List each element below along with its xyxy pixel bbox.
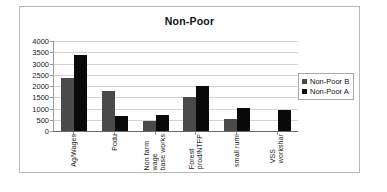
x-axis-category: Non farmwagebase works xyxy=(134,132,175,192)
plot-area xyxy=(53,41,298,132)
x-axis-tick-label: Podu xyxy=(111,134,118,151)
x-axis-tick-label: Non farm xyxy=(143,134,150,170)
x-axis-category: VSSworkshar xyxy=(256,132,297,192)
x-axis-tick-label: base works xyxy=(159,134,166,170)
x-axis-label-stack: Non farmwagebase works xyxy=(143,134,166,170)
bar[interactable] xyxy=(156,115,169,131)
bar[interactable] xyxy=(115,116,128,131)
chart-frame: Non-Poor 0500100015002000250030003500400… xyxy=(19,6,360,173)
y-axis-tick-label: 4000 xyxy=(32,37,49,46)
chart-title: Non-Poor xyxy=(20,15,359,27)
x-axis-tick-label: wage xyxy=(151,134,158,170)
bar[interactable] xyxy=(278,110,291,131)
x-axis-label-stack: Ag/Wages xyxy=(70,134,77,167)
bar-series-container xyxy=(54,41,298,131)
x-axis-tick-label: small rumi xyxy=(233,134,240,167)
y-axis-tick-label: 0 xyxy=(45,127,49,136)
y-axis-tick-label: 500 xyxy=(36,115,49,124)
bar[interactable] xyxy=(183,97,196,131)
bar[interactable] xyxy=(74,55,87,132)
bar-group xyxy=(217,41,258,131)
bar-group xyxy=(95,41,136,131)
y-axis-tick-label: 2000 xyxy=(32,82,49,91)
bar[interactable] xyxy=(102,91,115,132)
x-axis-category: Podu xyxy=(94,132,135,192)
legend-label: Non-Poor A xyxy=(310,87,349,96)
y-axis-tick-label: 1500 xyxy=(32,93,49,102)
x-axis-category: Forestprod/NTFP xyxy=(175,132,216,192)
x-axis-tick-label: Forest xyxy=(188,134,195,169)
legend-label: Non-Poor B xyxy=(310,77,349,86)
y-axis-tick-label: 3500 xyxy=(32,48,49,57)
x-axis-tick-label: VSS xyxy=(269,134,276,163)
bar[interactable] xyxy=(196,86,209,131)
bar[interactable] xyxy=(224,119,237,131)
bar-group xyxy=(176,41,217,131)
chart-legend: Non-Poor BNon-Poor A xyxy=(298,73,354,100)
bar[interactable] xyxy=(143,121,156,131)
y-axis-tick-label: 2500 xyxy=(32,70,49,79)
y-axis: 05001000150020002500300035004000 xyxy=(20,41,51,131)
x-axis-label-stack: Forestprod/NTFP xyxy=(188,134,203,169)
x-axis-label-stack: small rumi xyxy=(233,134,240,167)
x-axis-label-stack: VSSworkshar xyxy=(269,134,284,163)
x-axis-tick-label: prod/NTFP xyxy=(196,134,203,169)
bar[interactable] xyxy=(237,108,250,131)
bar-group xyxy=(54,41,95,131)
bar[interactable] xyxy=(61,78,74,131)
x-axis-category: Ag/Wages xyxy=(53,132,94,192)
y-axis-tick-label: 3000 xyxy=(32,59,49,68)
x-axis-tick-label: Ag/Wages xyxy=(70,134,77,167)
x-axis-label-stack: Podu xyxy=(111,134,118,151)
legend-item[interactable]: Non-Poor A xyxy=(302,87,349,96)
x-axis: Ag/WagesPoduNon farmwagebase worksForest… xyxy=(53,132,297,192)
bar-group xyxy=(135,41,176,131)
legend-swatch-icon xyxy=(302,89,307,94)
legend-item[interactable]: Non-Poor B xyxy=(302,77,349,86)
x-axis-tick-label: workshar xyxy=(277,134,284,163)
bar-group xyxy=(257,41,298,131)
x-axis-category: small rumi xyxy=(216,132,257,192)
y-axis-tick-label: 1000 xyxy=(32,104,49,113)
legend-swatch-icon xyxy=(302,79,307,84)
